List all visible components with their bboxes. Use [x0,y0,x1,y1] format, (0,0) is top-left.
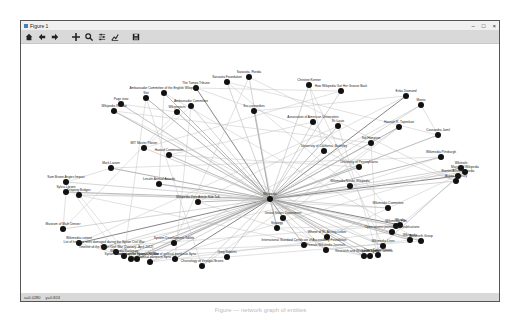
graph-node [306,82,312,88]
close-button[interactable]: × [492,23,496,29]
home-button[interactable] [25,33,33,41]
graph-node [224,254,230,260]
graph-node [171,240,177,246]
edge [131,199,270,259]
subplots-button[interactable] [98,33,106,41]
network-graph: WikipediaThe Tampa TribuneSarasota Found… [21,44,499,293]
graph-node [251,108,257,114]
graph-node [147,259,153,265]
graph-node [403,93,409,99]
zoom-button[interactable] [85,33,93,41]
graph-node [174,109,180,115]
node-label: Hannah R. Topeekan [384,120,414,124]
figure-caption: Figure — network graph of entities [0,307,521,313]
sliders-icon [98,33,106,41]
edge [66,182,270,199]
node-label: Wikiprojects [168,105,186,109]
graph-node [418,102,424,108]
node-label: Open access journals and publications [365,225,420,229]
node-label: Barnes/Allen/Wikipedia [442,169,475,173]
graph-node [143,95,149,101]
node-label: Ainsworth Group [409,234,433,238]
edge [309,85,383,246]
node-label: Sru crossedtes [243,104,265,108]
edge [249,77,456,181]
node-label: Aspen Mosbury [445,174,468,178]
graph-node [224,79,230,85]
node-label: Female Wikipedia Journals [307,243,346,247]
graph-node [335,123,341,129]
back-button[interactable] [38,33,46,41]
node-label: Hazard Commission [155,148,184,152]
node-label: Sarasota Foundation [212,75,242,79]
floppy-disk-icon [132,33,140,41]
home-icon [25,33,33,41]
node-label: University of California, Berkeley [301,144,347,148]
node-label: Christine Kenner [297,78,322,82]
graph-node [453,178,459,184]
edge [114,111,270,199]
edge [196,88,341,91]
node-label: Greg Roberts [217,250,237,254]
graph-node [438,154,444,160]
node-label: Cassandra Jamil [426,128,450,132]
graph-node [280,215,286,221]
graph-node [76,192,82,198]
graph-node [367,253,373,259]
node-label: Museum of Math Denver [46,222,82,226]
node-label: Syrian Observatory for Human Rights [105,252,158,256]
maximize-button[interactable]: □ [482,23,486,29]
title-bar: Figure 1 – □ × [21,21,499,30]
graph-node [310,119,316,125]
node-label: Strategy [271,221,283,225]
graph-node [156,181,162,187]
node-label: Chronology of Vestigial Brains [181,259,224,263]
graph-node [356,164,362,170]
node-label: International Standard Certificate of Ac… [261,238,346,242]
graph-node [166,152,172,158]
node-label: St. Louis [332,119,345,123]
node-label: Lincoln Annual Awards [143,177,175,181]
arrow-left-icon [38,33,46,41]
forward-button[interactable] [51,33,59,41]
node-label: University of Pennsylvania [340,160,378,164]
app-icon [24,24,28,28]
figure-window: Figure 1 – □ × [20,20,500,302]
graph-node [161,90,167,96]
graph-node [274,225,280,231]
graph-node [347,183,353,189]
pan-button[interactable] [72,33,80,41]
node-label: Wikimedia Committee [373,201,404,205]
graph-node [338,88,344,94]
graph-node [195,199,201,205]
node-label: Wikipedia Zero Article Sub Talk [176,195,220,199]
graph-node [128,256,134,262]
save-button[interactable] [132,33,140,41]
graph-node [111,108,117,114]
node-label: MIT Master Plaster [131,141,159,145]
edge [191,106,270,199]
cursor-y: y=0.824 [46,295,60,300]
graph-node [321,148,327,154]
minimize-button[interactable]: – [472,23,475,29]
graph-node [60,226,66,232]
axes-button[interactable] [111,33,119,41]
node-label: Wikimedia Film [385,219,407,223]
edge [254,96,406,111]
graph-node [141,145,147,151]
cursor-x: x=0.0280 [24,295,41,300]
node-label: List of political parties in Syria [154,252,196,256]
graph-node [246,74,252,80]
node-label: Ambassador Committee of the English Wiki… [129,86,198,90]
node-label: Ambassador Committee [174,99,208,103]
graph-node [199,263,205,269]
toolbar [21,30,499,44]
edge [270,167,359,199]
plot-canvas[interactable]: WikipediaThe Tampa TribuneSarasota Found… [21,44,499,293]
graph-node [418,238,424,244]
move-icon [72,33,80,41]
node-label: List of heritage sites damaged during th… [63,240,145,244]
edge [270,172,465,199]
node-label: Mark Larsen [102,161,120,165]
node-label: Wikimedia Pittsburgh [426,150,456,154]
